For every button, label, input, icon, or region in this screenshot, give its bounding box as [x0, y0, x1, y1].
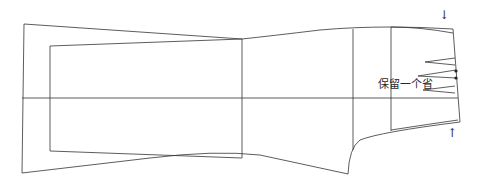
outer-outline	[22, 24, 460, 174]
inner-outline	[50, 39, 242, 158]
pattern-diagram	[0, 0, 480, 191]
arrow-down-icon: ↓	[439, 9, 449, 21]
dart-point-1	[454, 69, 457, 72]
dart-point-2	[454, 76, 457, 79]
dart-1	[425, 58, 455, 65]
arrow-up-icon: ↑	[447, 127, 457, 139]
keep-one-dart-label: 保留一个省	[378, 75, 433, 91]
